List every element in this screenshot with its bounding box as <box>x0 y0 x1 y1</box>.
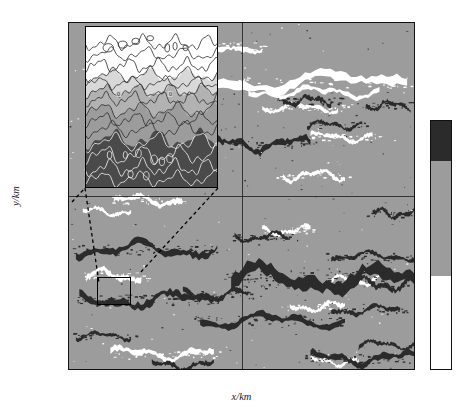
x-axis-label: x/km <box>68 391 415 402</box>
y-tick <box>68 336 69 337</box>
x-tick <box>104 369 105 370</box>
x-tick <box>243 369 244 370</box>
y-tick <box>68 197 69 198</box>
y-tick <box>68 23 69 24</box>
contour-label-zero-left: 0 <box>116 91 121 97</box>
contour-label-zero-right: 0 <box>168 91 173 97</box>
y-tick <box>68 93 69 94</box>
y-tick <box>68 58 69 59</box>
inset-contour-panel: 0 0 <box>85 26 218 188</box>
zoom-region-box <box>97 277 132 305</box>
x-tick <box>208 369 209 370</box>
x-tick <box>173 369 174 370</box>
y-tick <box>68 232 69 233</box>
x-tick <box>138 369 139 370</box>
x-tick <box>312 369 313 370</box>
colorbar-band <box>431 121 451 161</box>
colorbar-band <box>431 161 451 276</box>
y-tick <box>68 162 69 163</box>
x-tick <box>69 369 70 370</box>
colorbar-band <box>431 276 451 370</box>
figure-panel: 5004003002001000-100-200-300-400-500-500… <box>0 0 462 414</box>
x-tick <box>347 369 348 370</box>
x-tick <box>381 369 382 370</box>
y-tick <box>68 127 69 128</box>
y-tick <box>68 301 69 302</box>
colorbar: 3-3-7 <box>430 120 452 370</box>
y-axis-label: y/km <box>10 186 21 206</box>
x-tick <box>277 369 278 370</box>
y-tick <box>68 267 69 268</box>
colorbar-tick <box>451 276 452 277</box>
zero-line-horizontal <box>69 196 414 197</box>
colorbar-tick <box>451 161 452 162</box>
